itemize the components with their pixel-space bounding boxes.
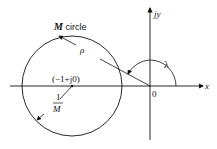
radius-line (60, 86, 72, 99)
center-label: (−1+j0) (52, 74, 80, 84)
radius-arrow (37, 114, 44, 120)
rho-arrow (59, 36, 76, 45)
frac-numerator: 1 (56, 92, 61, 102)
y-axis-label: jy (153, 9, 161, 19)
rho-line (100, 59, 150, 86)
rho-label: ρ (79, 45, 85, 55)
m-circle-diagram: M circle ρ λ (−1+j0) 1 M 0 x jy (0, 0, 217, 149)
frac-denominator: M (52, 104, 61, 114)
m-circle-label: M circle (53, 21, 86, 32)
lambda-label: λ (164, 59, 169, 70)
origin-label: 0 (152, 89, 157, 99)
x-axis-label: x (204, 81, 209, 91)
